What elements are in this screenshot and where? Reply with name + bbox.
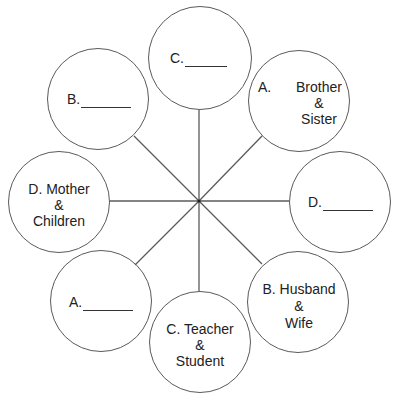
node-bottom-right-line3: Wife <box>262 315 336 332</box>
node-bottom-line1: C. Teacher <box>160 321 240 338</box>
answer-blank-top-left[interactable] <box>81 95 131 108</box>
spoke-top-left <box>134 136 199 201</box>
node-top-right-line2: & <box>294 95 344 112</box>
node-top-right-line3: Sister <box>294 111 344 128</box>
node-left-line2: & <box>20 197 98 214</box>
node-left-line1: D. Mother <box>20 181 98 198</box>
node-top-right-line1: Brother <box>294 79 344 96</box>
node-bottom-line3: Student <box>160 353 240 370</box>
answer-blank-right[interactable] <box>323 198 373 211</box>
answer-blank-bottom-left[interactable] <box>83 298 133 311</box>
node-top-right-letter: A. <box>258 79 271 96</box>
node-bottom-line2: & <box>160 337 240 354</box>
node-top-left-letter: B. <box>67 91 80 108</box>
node-top-letter: C. <box>170 50 184 67</box>
node-bottom-left-letter: A. <box>69 294 82 311</box>
node-left-line3: Children <box>20 213 98 230</box>
node-bottom-right-line2: & <box>262 298 336 315</box>
node-top-label: C. <box>170 50 227 67</box>
node-right-label: D. <box>308 194 373 211</box>
spoke-bottom-right <box>199 201 262 264</box>
node-top-left-label: B. <box>67 91 131 108</box>
spoke-bottom-left <box>135 201 199 265</box>
spoke-top-right <box>199 136 262 201</box>
node-bottom-left-label: A. <box>69 294 133 311</box>
hub-dot <box>197 199 200 202</box>
node-right-letter: D. <box>308 194 322 211</box>
node-bottom-right-line1: B. Husband <box>262 281 336 298</box>
answer-blank-top[interactable] <box>185 54 227 67</box>
